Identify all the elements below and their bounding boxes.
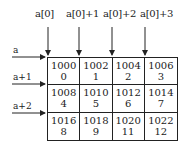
cell-address: 1008 (51, 87, 76, 98)
cell-address: 1014 (148, 87, 173, 98)
cell-address: 1020 (115, 115, 140, 126)
cell-address: 1012 (115, 87, 140, 98)
cell-address: 1010 (83, 87, 108, 98)
pointer-array-diagram: a[0] a[0]+1 a[0]+2 a[0]+3 a a+1 a+2 1000… (0, 0, 186, 148)
cell-value: 11 (122, 126, 135, 137)
column-label-1: a[0]+1 (66, 8, 99, 19)
cell-address: 1004 (115, 60, 140, 71)
memory-cell: 10147 (145, 85, 177, 112)
row-label-1: a+1 (13, 72, 32, 82)
row-label-0: a (13, 45, 18, 55)
cell-address: 1000 (51, 60, 76, 71)
memory-cell: 10084 (48, 85, 80, 112)
cell-value: 8 (60, 126, 66, 137)
cell-value: 4 (60, 98, 66, 109)
cell-value: 7 (158, 98, 164, 109)
cell-value: 6 (125, 98, 131, 109)
column-label-0: a[0] (35, 8, 54, 19)
memory-grid: 10000 10021 10042 10063 10084 10105 1012… (47, 57, 178, 141)
memory-cell: 10021 (80, 58, 112, 85)
cell-address: 1002 (83, 60, 108, 71)
memory-cell: 10105 (80, 85, 112, 112)
cell-value: 9 (93, 126, 99, 137)
memory-cell: 102212 (145, 113, 177, 140)
cell-address: 1016 (51, 115, 76, 126)
column-label-3: a[0]+3 (140, 8, 173, 19)
column-label-2: a[0]+2 (103, 8, 136, 19)
cell-value: 1 (93, 71, 99, 82)
cell-address: 1022 (148, 115, 173, 126)
memory-cell: 102011 (113, 113, 145, 140)
cell-value: 3 (158, 71, 164, 82)
memory-cell: 10000 (48, 58, 80, 85)
memory-cell: 10168 (48, 113, 80, 140)
memory-cell: 10063 (145, 58, 177, 85)
cell-address: 1018 (83, 115, 108, 126)
cell-value: 2 (125, 71, 131, 82)
cell-value: 5 (93, 98, 99, 109)
memory-cell: 10189 (80, 113, 112, 140)
memory-cell: 10126 (113, 85, 145, 112)
cell-address: 1006 (148, 60, 173, 71)
memory-cell: 10042 (113, 58, 145, 85)
cell-value: 0 (60, 71, 66, 82)
cell-value: 12 (155, 126, 168, 137)
row-label-2: a+2 (13, 101, 32, 111)
